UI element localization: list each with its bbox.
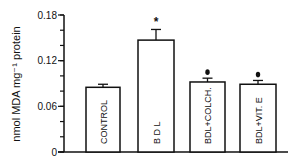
y-tick-label: 0.12 xyxy=(38,55,58,66)
significance-asterisk: * xyxy=(154,15,159,29)
significance-dot xyxy=(256,72,260,78)
y-tick-label: 0.18 xyxy=(38,10,58,21)
significance-dot xyxy=(205,69,209,75)
bar-label: BDL+COLCH. xyxy=(203,87,213,144)
bar-chart: 00.060.120.18 CONTROL*B D LBDL+COLCH.BDL… xyxy=(0,0,300,163)
bar-label: CONTROL xyxy=(99,100,109,144)
y-axis-label: nmol MDA mg⁻¹ protein xyxy=(10,26,22,141)
bars: CONTROL*B D LBDL+COLCH.BDL+VIT. E xyxy=(86,15,276,152)
y-tick-label: 0.06 xyxy=(38,101,58,112)
bar-label: BDL+VIT. E xyxy=(254,97,264,144)
y-tick-label: 0 xyxy=(51,147,57,158)
bar-label: B D L xyxy=(152,121,162,144)
